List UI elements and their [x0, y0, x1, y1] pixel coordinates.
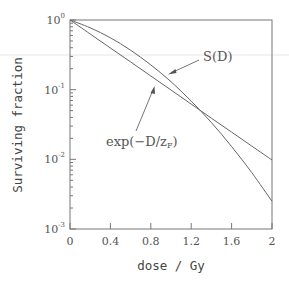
annotation-exp: exp(−D/zF)	[106, 86, 178, 150]
x-axis-title: dose / Gy	[137, 258, 205, 273]
curve-exp-reference	[70, 20, 272, 160]
x-tick-label: 0.4	[102, 235, 120, 248]
y-tick-label: 100	[47, 12, 65, 27]
annotation-sd-label: S(D)	[203, 49, 232, 64]
curve-survival-sd	[70, 20, 272, 201]
y-tick-label: 10-2	[44, 151, 65, 166]
x-tick-label: 2	[269, 235, 276, 248]
y-tick-label: 10-1	[44, 82, 65, 97]
annotation-sd: S(D)	[168, 49, 232, 75]
x-axis-ticks	[70, 223, 272, 229]
plot-area	[70, 20, 272, 229]
annotation-exp-arrow	[136, 90, 153, 131]
annotation-exp-label: exp(−D/zF)	[106, 134, 178, 150]
x-tick-label: 1.2	[182, 235, 200, 248]
arrowhead-icon	[168, 69, 177, 75]
x-tick-label: 1.6	[223, 235, 241, 248]
y-axis-title: Surviving fraction	[10, 57, 25, 192]
x-tick-label: 0.8	[142, 235, 160, 248]
data-curves	[70, 20, 272, 201]
plot-frame	[70, 20, 272, 229]
y-axis-tick-labels: 10010-110-210-3	[44, 12, 65, 236]
x-tick-label: 0	[67, 235, 74, 248]
y-tick-label: 10-3	[44, 221, 65, 236]
x-axis-tick-labels: 00.40.81.21.62	[67, 235, 276, 248]
y-axis-ticks	[70, 20, 76, 229]
survival-curve-chart: 10010-110-210-3 00.40.81.21.62 S(D) exp(…	[0, 0, 289, 285]
arrowhead-icon	[151, 86, 156, 94]
